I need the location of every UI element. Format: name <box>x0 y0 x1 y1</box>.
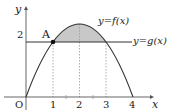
origin-label: O <box>15 100 23 110</box>
x-tick-3: 3 <box>103 100 109 110</box>
point-a-label: A <box>42 29 50 40</box>
x-tick-4: 4 <box>129 100 135 110</box>
g-line-label: y=g(x) <box>133 36 167 46</box>
y-axis-label: y <box>15 4 21 15</box>
x-tick-2: 2 <box>76 100 82 110</box>
y-tick-2: 2 <box>17 30 23 40</box>
point-a-marker <box>51 40 56 45</box>
x-tick-1: 1 <box>50 100 56 110</box>
x-axis-label: x <box>152 99 158 110</box>
function-graph: y x O 2 1 2 3 4 A y=f(x) y=g(x) <box>0 0 173 112</box>
y-axis-arrow-icon <box>24 6 28 10</box>
graph-canvas <box>0 0 173 112</box>
f-curve-label: y=f(x) <box>98 16 129 26</box>
